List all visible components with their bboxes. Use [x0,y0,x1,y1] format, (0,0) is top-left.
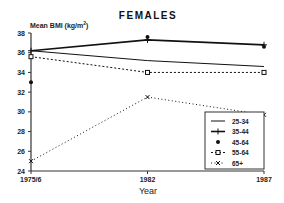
y-axis-label-main: Mean BMI (kg/m [30,22,83,30]
y-tick-label: 26 [17,148,25,155]
chart-title: FEMALES [119,10,177,21]
y-tick-label: 28 [17,128,25,135]
y-tick-label: 24 [17,168,25,175]
y-tick-label: 32 [17,89,25,96]
x-tick-label: 1982 [140,176,156,183]
marker-star [262,45,266,49]
marker-square [29,55,33,59]
y-tick-label: 30 [17,108,25,115]
x-axis-label: Year [139,186,157,196]
series-35-44 [28,37,267,54]
legend-label: 65+ [232,160,243,167]
series-25-34 [31,51,264,67]
y-tick-label: 36 [17,49,25,56]
y-tick-label: 38 [17,30,25,37]
legend: 25-3435-4445-6455-6465+ [205,112,264,169]
y-tick-label: 34 [17,69,25,76]
legend-label: 55-64 [232,149,249,156]
marker-square [262,70,266,74]
series-line [31,51,264,67]
marker-square [216,151,220,155]
legend-label: 25-34 [232,118,249,125]
x-tick-label: 1975/6 [20,176,42,183]
marker-star [146,35,150,39]
y-axis-label-end: ) [86,22,88,30]
x-tick-label: 1987 [256,176,272,183]
legend-label: 35-44 [232,128,249,135]
marker-star [29,80,33,84]
legend-label: 45-64 [232,139,249,146]
marker-square [146,70,150,74]
chart: FEMALES Mean BMI (kg/m2) 242628303234363… [0,0,284,203]
y-axis-label: Mean BMI (kg/m2) [30,20,88,30]
marker-star [216,140,220,144]
